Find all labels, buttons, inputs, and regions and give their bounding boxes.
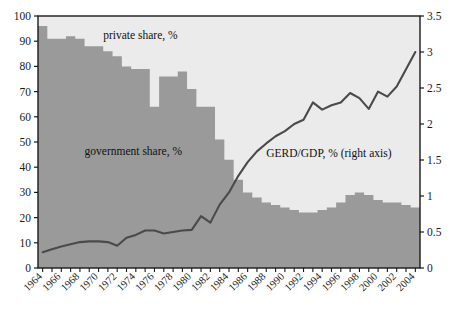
left-axis-tick-label: 60 (20, 111, 32, 123)
x-axis-tick-label: 1986 (226, 271, 249, 294)
x-axis-tick-label: 1990 (264, 271, 287, 294)
right-axis-tick-label: 1 (427, 190, 433, 202)
x-axis-tick-label: 2002 (375, 271, 398, 294)
x-axis-tick-label: 2000 (357, 271, 380, 294)
chart-annotation: private share, % (103, 29, 178, 42)
x-axis-tick-label: 1970 (77, 271, 100, 294)
left-axis-tick-label: 30 (20, 186, 32, 198)
right-axis-tick-label: 0 (427, 262, 433, 274)
right-axis-tick-label: 2 (427, 118, 433, 130)
x-axis-tick-label: 1996 (320, 271, 343, 294)
x-axis-tick-label: 1974 (115, 270, 138, 293)
right-axis-tick-label: 1.5 (427, 154, 442, 166)
x-axis-tick-label: 1994 (301, 270, 324, 293)
x-axis-tick-label: 1992 (282, 271, 305, 294)
right-axis-tick-label: 3 (427, 46, 433, 58)
left-axis-tick-label: 100 (14, 10, 32, 22)
x-axis-tick-label: 1988 (245, 271, 268, 294)
left-axis-tick-label: 80 (20, 60, 32, 72)
x-axis-tick-label: 1968 (59, 271, 82, 294)
right-axis-tick-label: 2.5 (427, 82, 442, 94)
chart-container: 010203040506070809010000.511.522.533.519… (0, 0, 457, 313)
x-axis-tick-label: 1980 (171, 271, 194, 294)
left-axis-tick-label: 0 (25, 262, 31, 274)
left-axis-tick-label: 50 (20, 136, 32, 148)
x-axis-tick-label: 1982 (189, 271, 212, 294)
right-axis-tick-label: 3.5 (427, 10, 442, 22)
right-axis-tick-label: 0.5 (427, 226, 442, 238)
left-axis-tick-label: 70 (20, 86, 32, 98)
x-axis-tick-label: 1972 (96, 271, 119, 294)
x-axis-tick-label: 2004 (394, 270, 417, 293)
chart-annotation: GERD/GDP, % (right axis) (266, 147, 391, 160)
chart-annotation: government share, % (85, 145, 183, 158)
left-axis-tick-label: 90 (20, 35, 32, 47)
x-axis-tick-label: 1984 (208, 270, 231, 293)
x-axis-tick-label: 1976 (133, 271, 156, 294)
left-axis-tick-label: 40 (20, 161, 32, 173)
x-axis-tick-label: 1978 (152, 271, 175, 294)
gerd-shares-chart: 010203040506070809010000.511.522.533.519… (0, 0, 457, 313)
x-axis-tick-label: 1998 (338, 271, 361, 294)
left-axis-tick-label: 10 (20, 237, 32, 249)
left-axis-tick-label: 20 (20, 212, 32, 224)
x-axis-tick-label: 1966 (40, 271, 63, 294)
